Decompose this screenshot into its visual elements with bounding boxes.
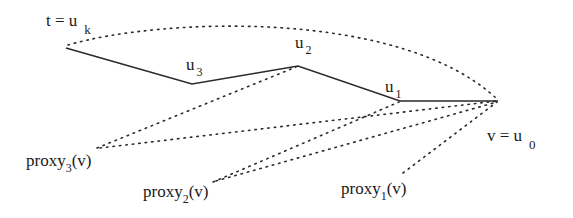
label-u0-sub: 0 [529, 137, 536, 152]
label-u2: u2 [295, 34, 312, 51]
dotted-proxy2-to-u1 [213, 102, 399, 182]
label-u0-main: v = u [487, 126, 522, 145]
label-uk-sub: k [84, 22, 91, 37]
label-u1: u1 [385, 78, 402, 95]
label-proxy2-main: proxy [143, 182, 183, 201]
label-proxy3-main: proxy [26, 151, 66, 170]
label-u3-main: u [186, 55, 195, 74]
label-proxy3-tail: (v) [72, 151, 92, 170]
label-u2-sub: 2 [306, 43, 312, 57]
label-proxy2-sub: 2 [183, 192, 189, 206]
label-proxy1-main: proxy [341, 179, 381, 198]
label-u1-main: u [385, 77, 394, 96]
label-proxy1-sub: 1 [381, 189, 387, 203]
label-proxy1-tail: (v) [387, 179, 407, 198]
dotted-proxy1-to-v [403, 102, 497, 173]
label-u3: u3 [186, 56, 203, 73]
diagram-canvas: t = uk u3 u2 u1 v = u0 proxy3(v) proxy2(… [0, 0, 573, 218]
label-u2-main: u [295, 33, 304, 52]
label-u1-sub: 1 [396, 87, 402, 101]
label-proxy1: proxy1(v) [341, 180, 407, 197]
label-uk: t = uk [46, 12, 91, 29]
label-proxy2-tail: (v) [189, 182, 209, 201]
dotted-arc-uk-to-v [68, 26, 497, 99]
label-u0: v = u0 [487, 127, 536, 144]
solid-path [66, 48, 498, 101]
label-proxy3-sub: 3 [66, 161, 72, 175]
label-uk-main: t = u [46, 11, 77, 30]
dotted-proxy3-to-v [100, 101, 497, 148]
dotted-proxy2-to-v [216, 102, 497, 181]
label-proxy2: proxy2(v) [143, 183, 209, 200]
label-u3-sub: 3 [197, 65, 203, 79]
label-proxy3: proxy3(v) [26, 152, 92, 169]
